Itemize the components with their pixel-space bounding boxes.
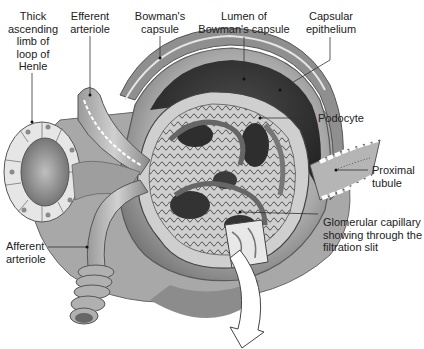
label-glomerular-capillary: Glomerular capillary showing through the… bbox=[323, 216, 422, 254]
label-line: Podocyte bbox=[318, 112, 364, 125]
label-line: Bowman's bbox=[130, 10, 190, 23]
label-line: Afferent bbox=[6, 240, 46, 253]
label-lumen-bowmans-capsule: Lumen of Bowman's capsule bbox=[198, 10, 290, 35]
label-line: capsule bbox=[130, 23, 190, 36]
label-line: limb of bbox=[6, 35, 60, 48]
label-afferent-arteriole: Afferent arteriole bbox=[6, 240, 46, 265]
label-proximal-tubule: Proximal tubule bbox=[372, 164, 415, 189]
label-line: Proximal bbox=[372, 164, 415, 177]
label-line: Glomerular capillary bbox=[323, 216, 422, 229]
label-line: epithelium bbox=[300, 23, 362, 36]
label-line: Bowman's capsule bbox=[198, 23, 290, 36]
label-line: loop of bbox=[6, 48, 60, 61]
label-capsular-epithelium: Capsular epithelium bbox=[300, 10, 362, 35]
label-line: filtration slit bbox=[323, 241, 422, 254]
label-line: Henle bbox=[6, 60, 60, 73]
label-line: ascending bbox=[6, 23, 60, 36]
label-line: Lumen of bbox=[198, 10, 290, 23]
label-bowmans-capsule: Bowman's capsule bbox=[130, 10, 190, 35]
label-line: showing through the bbox=[323, 229, 422, 242]
label-line: Thick bbox=[6, 10, 60, 23]
label-thick-ascending-limb: Thick ascending limb of loop of Henle bbox=[6, 10, 60, 73]
renal-corpuscle-illustration bbox=[0, 0, 424, 349]
label-line: Efferent bbox=[68, 10, 112, 23]
label-line: arteriole bbox=[6, 253, 46, 266]
label-line: Capsular bbox=[300, 10, 362, 23]
label-line: arteriole bbox=[68, 23, 112, 36]
thick-ascending-limb-shape bbox=[4, 122, 80, 222]
label-line: tubule bbox=[372, 177, 415, 190]
label-efferent-arteriole: Efferent arteriole bbox=[68, 10, 112, 35]
label-podocyte: Podocyte bbox=[318, 112, 364, 125]
